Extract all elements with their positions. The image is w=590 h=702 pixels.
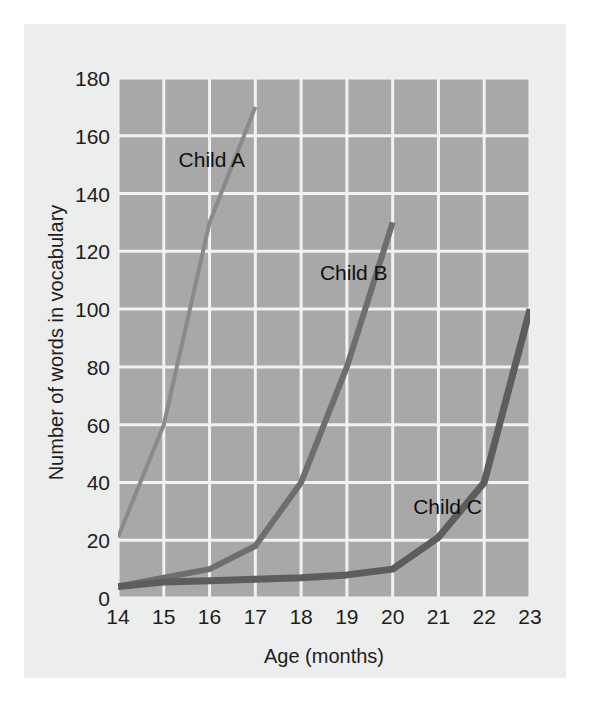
x-axis-ticks: 14151617181920212223 xyxy=(118,606,530,636)
chart-figure: Child AChild BChild C 020406080100120140… xyxy=(0,0,590,702)
series-line-1 xyxy=(118,107,255,537)
y-axis-title: Number of words in vocabulary xyxy=(45,83,68,603)
x-axis-title: Age (months) xyxy=(118,645,530,668)
series-label-3: Child C xyxy=(413,495,482,516)
x-tick-label: 23 xyxy=(500,606,560,627)
plot-area: Child AChild BChild C xyxy=(118,78,530,598)
series-label-1: Child A xyxy=(179,148,246,169)
series-label-2: Child B xyxy=(320,261,388,282)
